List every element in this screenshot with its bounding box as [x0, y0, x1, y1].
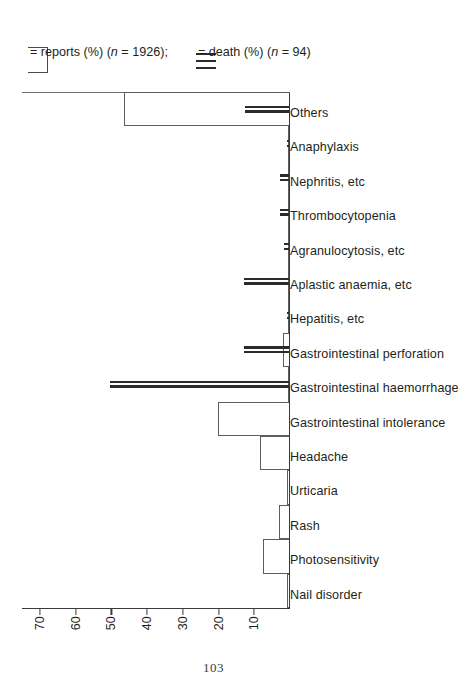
category-label: Thrombocytopenia: [290, 209, 396, 223]
bar-slot: [21, 333, 289, 367]
category-label: Headache: [290, 450, 348, 464]
category-label: Rash: [290, 519, 320, 533]
bar-death: [243, 278, 288, 280]
legend-swatch-rule: [196, 60, 216, 62]
category-label: Agranulocytosis, etc: [290, 244, 405, 258]
category-label: Urticaria: [290, 484, 338, 498]
bar-death: [244, 346, 289, 348]
bar-slot: [21, 92, 289, 126]
bar-reports: [279, 505, 289, 539]
y-axis-tick-label: 10: [247, 609, 261, 665]
category-label: Aplastic anaemia, etc: [290, 278, 412, 292]
y-axis-tick-mark: [217, 609, 218, 615]
bar-death: [279, 213, 288, 215]
category-label: Nail disorder: [290, 588, 362, 602]
bar-reports: [260, 436, 289, 470]
chart-legend: = reports (%) (n = 1926);= death (%) (n …: [28, 19, 358, 75]
bar-death: [286, 145, 288, 147]
bar-death: [244, 110, 288, 112]
bar-slot: [21, 298, 289, 332]
bar-death: [286, 317, 288, 319]
y-axis-tick-label: 40: [140, 609, 154, 665]
bar-reports: [217, 402, 288, 436]
bar-death: [244, 106, 288, 108]
y-axis-tick-mark: [110, 609, 111, 615]
y-axis-tick-mark: [146, 609, 147, 615]
y-axis-tick-mark: [182, 609, 183, 615]
plot-area: [22, 93, 290, 609]
bar-slot: [21, 402, 289, 436]
bar-slot: [21, 126, 289, 160]
bar-slot: [21, 436, 289, 470]
category-label: Gastrointestinal perforation: [290, 347, 444, 361]
bar-death: [279, 174, 288, 176]
bar-death: [243, 282, 288, 284]
page-number: 103: [0, 660, 427, 676]
bar-death: [110, 385, 289, 387]
y-axis-tick-mark: [253, 609, 254, 615]
legend-label: = death (%) (n = 94): [198, 45, 311, 59]
bar-slot: [21, 195, 289, 229]
y-axis-tick-label: 20: [211, 609, 225, 665]
bar-death: [279, 179, 288, 181]
bar-death: [110, 381, 289, 383]
legend-swatch-rule: [196, 67, 216, 69]
category-label: Anaphylaxis: [290, 140, 359, 154]
category-label: Gastrointestinal intolerance: [290, 416, 445, 430]
category-label: Gastrointestinal haemorrhage: [290, 381, 458, 395]
y-axis-tick-mark: [39, 609, 40, 615]
bar-slot: [21, 230, 289, 264]
bar-death: [244, 351, 289, 353]
bar-slot: [21, 505, 289, 539]
bar-reports: [287, 470, 289, 504]
category-label: Others: [290, 106, 328, 120]
y-axis-tick-mark: [75, 609, 76, 615]
y-axis-tick-label: 60: [68, 609, 82, 665]
bar-death: [284, 243, 289, 245]
y-axis-tick-label: 30: [175, 609, 189, 665]
bar-slot: [21, 161, 289, 195]
bar-death: [284, 248, 289, 250]
bar-slot: [21, 367, 289, 401]
bar-reports: [263, 539, 289, 573]
bar-reports: [286, 574, 288, 608]
bar-slot: [21, 539, 289, 573]
bar-slot: [21, 470, 289, 504]
bar-chart: 10203040506070 Nail disorderPhotosensiti…: [14, 17, 414, 665]
y-axis-tick-label: 50: [104, 609, 118, 665]
bar-death: [279, 209, 288, 211]
legend-label: = reports (%) (n = 1926);: [30, 45, 168, 59]
bar-slot: [21, 574, 289, 608]
category-label: Photosensitivity: [290, 553, 379, 567]
bar-death: [286, 140, 288, 142]
bar-death: [286, 312, 288, 314]
bar-slot: [21, 264, 289, 298]
category-label: Hepatitis, etc: [290, 312, 364, 326]
category-label: Nephritis, etc: [290, 175, 365, 189]
y-axis-tick-label: 70: [32, 609, 46, 665]
